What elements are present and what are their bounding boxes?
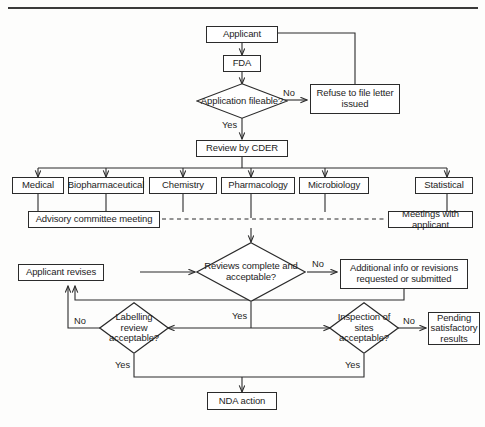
- node-nda-action[interactable]: NDA action: [207, 392, 277, 410]
- node-additional-info[interactable]: Additional info or revisions requested o…: [340, 259, 468, 289]
- edge-refuse-to-applicant: [268, 33, 355, 84]
- edge-label-labelling-yes: Yes: [115, 360, 130, 370]
- node-discipline-medical-label: Medical: [22, 180, 54, 191]
- edge-label-labelling-no: No: [74, 316, 86, 326]
- node-discipline-statistical-label: Statistical: [424, 180, 464, 191]
- node-discipline-chemistry[interactable]: Chemistry: [149, 177, 217, 194]
- node-meetings-with-applicant-label: Meetings with applicant: [393, 209, 468, 230]
- node-fda[interactable]: FDA: [223, 55, 261, 72]
- node-advisory-committee-meeting-label: Advisory committee meeting: [36, 214, 153, 225]
- node-discipline-statistical[interactable]: Statistical: [415, 177, 473, 194]
- node-reviews-complete-shape[interactable]: [196, 242, 306, 302]
- node-discipline-biopharmaceutical-label: Biopharmaceutical: [68, 180, 144, 191]
- node-additional-info-label: Additional info or revisions requested o…: [345, 263, 463, 284]
- node-applicant-revises[interactable]: Applicant revises: [18, 264, 104, 281]
- node-applicant[interactable]: Applicant: [206, 26, 278, 43]
- node-inspection-of-sites-shape[interactable]: [329, 302, 399, 354]
- node-labelling-review-shape[interactable]: [99, 302, 169, 354]
- edge-label-inspection-no: No: [403, 316, 415, 326]
- node-refuse-to-file-label: Refuse to file letter issued: [315, 88, 395, 109]
- node-fda-label: FDA: [233, 58, 252, 69]
- edge-label-fileable-yes: Yes: [222, 120, 237, 130]
- node-discipline-microbiology[interactable]: Microbiology: [299, 177, 369, 194]
- node-discipline-medical[interactable]: Medical: [12, 177, 64, 194]
- node-review-by-cder[interactable]: Review by CDER: [196, 140, 288, 157]
- node-discipline-pharmacology-label: Pharmacology: [228, 180, 288, 191]
- node-pending-results[interactable]: Pending satisfactory results: [428, 312, 480, 345]
- node-pending-results-label: Pending satisfactory results: [431, 313, 478, 345]
- node-applicant-revises-label: Applicant revises: [26, 267, 96, 278]
- node-discipline-pharmacology[interactable]: Pharmacology: [221, 177, 295, 194]
- node-review-by-cder-label: Review by CDER: [206, 143, 278, 154]
- node-refuse-to-file[interactable]: Refuse to file letter issued: [310, 84, 400, 114]
- node-applicant-label: Applicant: [223, 29, 261, 40]
- edge-label-reviews-yes: Yes: [232, 311, 247, 321]
- node-meetings-with-applicant[interactable]: Meetings with applicant: [388, 211, 473, 228]
- node-advisory-committee-meeting[interactable]: Advisory committee meeting: [28, 211, 160, 228]
- edge-labelling-yes: [134, 354, 242, 377]
- flowchart-figure: Applicant FDA Application fileable? Refu…: [0, 0, 485, 427]
- edge-label-fileable-no: No: [283, 88, 295, 98]
- node-application-fileable-shape[interactable]: [196, 83, 288, 119]
- edge-label-inspection-yes: Yes: [345, 360, 360, 370]
- node-discipline-biopharmaceutical[interactable]: Biopharmaceutical: [68, 177, 144, 194]
- edge-label-reviews-no: No: [312, 259, 324, 269]
- node-nda-action-label: NDA action: [219, 396, 266, 407]
- node-discipline-microbiology-label: Microbiology: [308, 180, 360, 191]
- node-discipline-chemistry-label: Chemistry: [162, 180, 204, 191]
